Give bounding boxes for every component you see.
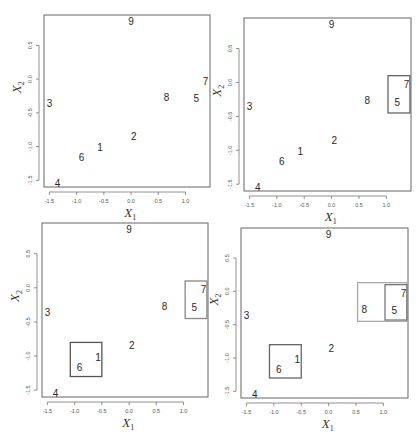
x-tick-label: 1.0 bbox=[380, 409, 388, 415]
point-label-5: 5 bbox=[194, 93, 200, 104]
x-tick-label: -1.0 bbox=[72, 198, 81, 204]
point-label-1: 1 bbox=[97, 142, 103, 153]
y-axis-label: X2 bbox=[9, 81, 26, 94]
panel-top-right: -1.5-1.0-0.50.00.51.0-1.5-1.0-0.50.00.5X… bbox=[209, 18, 411, 226]
x-tick-label: -1.5 bbox=[245, 202, 254, 208]
y-tick-label: -1.5 bbox=[27, 176, 33, 185]
point-label-7: 7 bbox=[404, 79, 410, 90]
y-tick-label: 0.5 bbox=[227, 45, 233, 53]
x-axis-label: X1 bbox=[324, 209, 337, 226]
y-tick-label: -1.5 bbox=[227, 179, 233, 188]
x-tick-label: -1.0 bbox=[70, 408, 79, 414]
point-label-6: 6 bbox=[276, 364, 282, 375]
point-label-8: 8 bbox=[164, 92, 170, 103]
panel-bottom-left: -1.5-1.0-0.50.00.51.0-1.5-1.0-0.50.00.5X… bbox=[7, 223, 208, 432]
point-label-3: 3 bbox=[244, 310, 250, 321]
point-label-3: 3 bbox=[247, 101, 253, 112]
y-axis-label: X2 bbox=[209, 85, 226, 98]
x-tick-label: 0.0 bbox=[127, 198, 135, 204]
point-label-6: 6 bbox=[77, 362, 83, 373]
y-tick-label: -1.5 bbox=[25, 385, 31, 394]
y-tick-label: 0.0 bbox=[224, 288, 230, 296]
x-tick-label: 0.5 bbox=[154, 198, 162, 204]
point-label-5: 5 bbox=[395, 97, 401, 108]
plot-frame bbox=[244, 18, 411, 191]
x-tick-label: -0.5 bbox=[299, 202, 308, 208]
y-tick-label: -0.5 bbox=[25, 317, 31, 326]
point-label-2: 2 bbox=[329, 343, 335, 354]
x-tick-label: -1.5 bbox=[242, 409, 251, 415]
y-tick-label: -0.5 bbox=[227, 112, 233, 121]
y-tick-label: -1.0 bbox=[224, 353, 230, 362]
x-tick-label: 0.5 bbox=[152, 408, 160, 414]
x-tick-label: -1.0 bbox=[272, 202, 281, 208]
point-label-6: 6 bbox=[79, 152, 85, 163]
x-tick-label: 1.0 bbox=[383, 202, 391, 208]
point-label-9: 9 bbox=[128, 16, 134, 27]
y-tick-label: -1.5 bbox=[224, 387, 230, 396]
point-label-2: 2 bbox=[131, 131, 137, 142]
point-label-9: 9 bbox=[329, 19, 335, 30]
plot-frame bbox=[241, 228, 408, 398]
x-tick-label: 0.0 bbox=[328, 202, 336, 208]
cluster-box-5-7-8 bbox=[358, 283, 407, 322]
point-label-1: 1 bbox=[95, 352, 101, 363]
y-axis-label: X2 bbox=[206, 293, 223, 306]
clustering-figure: -1.5-1.0-0.50.00.51.0-1.5-1.0-0.50.00.5X… bbox=[0, 0, 420, 439]
x-axis-label: X1 bbox=[121, 415, 134, 432]
y-axis-label: X2 bbox=[7, 290, 24, 303]
point-label-6: 6 bbox=[279, 156, 285, 167]
y-tick-label: 0.0 bbox=[227, 79, 233, 87]
x-tick-label: 0.0 bbox=[125, 408, 133, 414]
point-label-5: 5 bbox=[392, 305, 398, 316]
point-label-1: 1 bbox=[295, 354, 301, 365]
y-tick-label: 0.5 bbox=[25, 250, 31, 258]
point-label-8: 8 bbox=[364, 95, 370, 106]
x-axis-label: X1 bbox=[123, 205, 136, 222]
x-tick-label: 1.0 bbox=[182, 198, 190, 204]
y-tick-label: -0.5 bbox=[224, 320, 230, 329]
panel-bottom-right: -1.5-1.0-0.50.00.51.0-1.5-1.0-0.50.00.5X… bbox=[206, 228, 408, 433]
y-tick-label: 0.5 bbox=[27, 42, 33, 50]
point-label-2: 2 bbox=[129, 340, 135, 351]
x-tick-label: -1.0 bbox=[269, 409, 278, 415]
point-label-8: 8 bbox=[162, 301, 168, 312]
point-label-4: 4 bbox=[55, 178, 61, 189]
x-tick-label: -1.5 bbox=[43, 408, 52, 414]
point-label-2: 2 bbox=[332, 135, 338, 146]
y-tick-label: 0.0 bbox=[25, 284, 31, 292]
y-tick-label: -1.0 bbox=[27, 142, 33, 151]
point-label-7: 7 bbox=[401, 288, 407, 299]
x-tick-label: 0.5 bbox=[352, 409, 360, 415]
point-label-3: 3 bbox=[45, 307, 51, 318]
x-tick-label: 0.5 bbox=[355, 202, 363, 208]
x-tick-label: -0.5 bbox=[296, 409, 305, 415]
plot-frame bbox=[44, 15, 210, 187]
x-axis-label: X1 bbox=[321, 416, 334, 433]
point-label-1: 1 bbox=[298, 146, 304, 157]
point-label-7: 7 bbox=[203, 76, 209, 87]
point-label-3: 3 bbox=[47, 98, 53, 109]
point-label-7: 7 bbox=[201, 284, 207, 295]
y-tick-label: -1.0 bbox=[227, 146, 233, 155]
x-tick-label: -0.5 bbox=[97, 408, 106, 414]
x-tick-label: 0.0 bbox=[325, 409, 333, 415]
y-tick-label: -0.5 bbox=[27, 108, 33, 117]
y-tick-label: -1.0 bbox=[25, 351, 31, 360]
x-tick-label: -0.5 bbox=[99, 198, 108, 204]
x-tick-label: -1.5 bbox=[45, 198, 54, 204]
point-label-8: 8 bbox=[361, 304, 367, 315]
point-label-9: 9 bbox=[326, 229, 332, 240]
y-tick-label: 0.5 bbox=[224, 254, 230, 262]
plot-frame bbox=[42, 223, 208, 397]
point-label-5: 5 bbox=[192, 302, 198, 313]
point-label-4: 4 bbox=[255, 182, 261, 193]
figure-svg: -1.5-1.0-0.50.00.51.0-1.5-1.0-0.50.00.5X… bbox=[0, 0, 420, 439]
y-tick-label: 0.0 bbox=[27, 75, 33, 83]
point-label-9: 9 bbox=[126, 224, 132, 235]
panel-top-left: -1.5-1.0-0.50.00.51.0-1.5-1.0-0.50.00.5X… bbox=[9, 15, 210, 222]
point-label-4: 4 bbox=[252, 389, 258, 400]
point-label-4: 4 bbox=[53, 388, 59, 399]
x-tick-label: 1.0 bbox=[180, 408, 188, 414]
